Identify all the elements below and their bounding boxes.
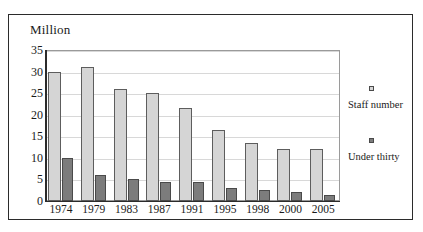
y-axis-tick-label: 25 [2, 86, 43, 101]
y-axis-tick-label: 0 [2, 194, 43, 209]
bar-group [114, 50, 143, 201]
legend-entry: Under thirty [348, 138, 418, 164]
bar-under-thirty [259, 190, 270, 201]
bar-staff-number [81, 67, 94, 201]
bar-group [245, 50, 274, 201]
clipped-caption [0, 0, 423, 4]
x-axis-tick-label: 1987 [148, 203, 171, 215]
y-axis-tick-label: 30 [2, 64, 43, 79]
bar-staff-number [146, 93, 159, 201]
bar-group [179, 50, 208, 201]
x-axis-tick-label: 1974 [50, 203, 73, 215]
bar-staff-number [245, 143, 258, 201]
bar-group [310, 50, 339, 201]
bar-group [212, 50, 241, 201]
y-axis-tick-label: 15 [2, 129, 43, 144]
bar-under-thirty [226, 188, 237, 201]
x-axis-tick-label: 1998 [246, 203, 269, 215]
bar-group [81, 50, 110, 201]
bar-group [277, 50, 306, 201]
bar-under-thirty [128, 179, 139, 201]
y-axis-tick-label: 5 [2, 172, 43, 187]
bar-under-thirty [324, 195, 335, 201]
y-axis-tick-label: 35 [2, 43, 43, 58]
bar-staff-number [48, 72, 61, 201]
bar-under-thirty [95, 175, 106, 201]
bars-layer [45, 50, 340, 201]
bar-group [146, 50, 175, 201]
x-axis-tick-labels: 197419791983198719911995199820002005 [45, 203, 340, 221]
bar-staff-number [212, 130, 225, 201]
bar-group [48, 50, 77, 201]
x-axis-tick-label: 1991 [181, 203, 204, 215]
x-axis-tick-label: 1979 [82, 203, 105, 215]
bar-under-thirty [193, 182, 204, 201]
legend-swatch-staff [369, 86, 374, 91]
y-axis-tick-label: 10 [2, 150, 43, 165]
chart-legend: Staff numberUnder thirty [348, 86, 418, 190]
y-axis-tick-label: 20 [2, 107, 43, 122]
legend-entry: Staff number [348, 86, 418, 112]
bar-under-thirty [160, 182, 171, 201]
bar-staff-number [277, 149, 290, 201]
x-axis-tick-label: 1995 [213, 203, 236, 215]
bar-under-thirty [291, 192, 302, 201]
bar-staff-number [179, 108, 192, 201]
legend-label: Staff number [348, 99, 403, 110]
bar-staff-number [310, 149, 323, 201]
y-axis-tick-labels: 35302520151050 [0, 0, 43, 232]
legend-label: Under thirty [348, 151, 400, 162]
bar-staff-number [114, 89, 127, 201]
x-axis-tick-label: 1983 [115, 203, 138, 215]
legend-swatch-under [369, 138, 374, 143]
bar-under-thirty [62, 158, 73, 201]
x-axis-tick-label: 2000 [279, 203, 302, 215]
x-axis-tick-label: 2005 [312, 203, 335, 215]
